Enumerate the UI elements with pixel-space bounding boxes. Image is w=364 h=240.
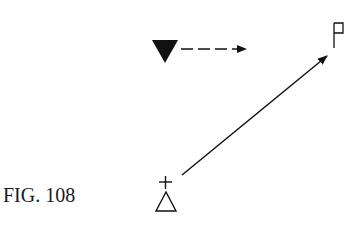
figure-label: FIG. 108 bbox=[3, 184, 75, 207]
open-triangle-icon bbox=[156, 192, 176, 211]
filled-triangle-icon bbox=[152, 40, 178, 63]
flag-icon bbox=[334, 23, 343, 48]
plus-icon bbox=[159, 176, 172, 189]
diagonal-arrow-icon bbox=[182, 56, 327, 175]
